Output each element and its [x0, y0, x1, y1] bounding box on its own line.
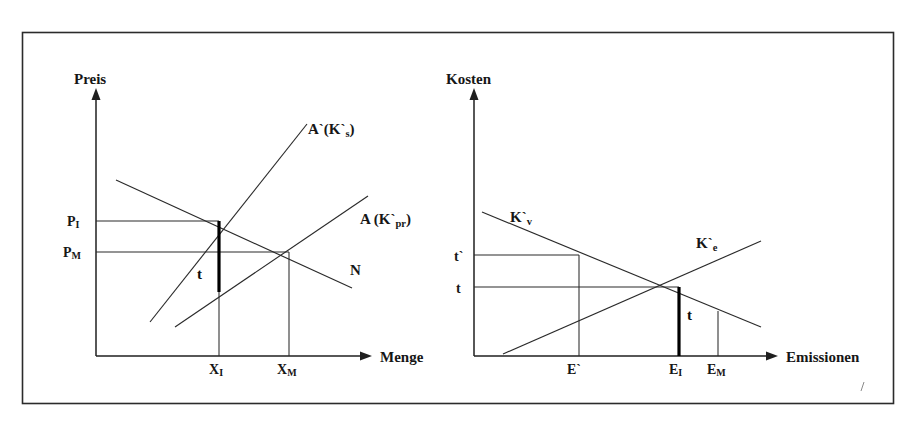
right-panel: Kosten Emissionen K`v K`e t` t E` EI EM …	[446, 71, 860, 378]
curve-label-demand-n: N	[350, 262, 361, 278]
tick-label-cost-t: t	[456, 281, 461, 296]
curve-k-prime-e	[503, 241, 761, 354]
tick-label-emissions-e-prime: E`	[567, 362, 581, 377]
curve-k-prime-v	[482, 212, 761, 327]
left-y-axis-arrowhead	[92, 88, 101, 100]
tax-gap-label-left: t	[197, 266, 202, 282]
figure-root: Preis Menge A`(K`s) A (K`pr) N PI PM XI …	[0, 0, 907, 435]
curve-label-k-prime-v: K`v	[510, 209, 533, 227]
curve-label-k-prime-e: K`e	[696, 235, 718, 253]
tick-label-cost-t-prime: t`	[454, 249, 463, 264]
left-x-axis-title: Menge	[380, 349, 424, 365]
curve-a-prime-social	[150, 124, 307, 322]
curve-demand-n	[116, 180, 352, 288]
curve-label-a-prime: A`(K`s)	[308, 121, 355, 139]
right-x-axis-arrowhead	[766, 352, 778, 361]
right-y-axis-title: Kosten	[446, 71, 492, 87]
curve-a-private	[175, 196, 368, 327]
tick-label-quantity-xm: XM	[277, 362, 297, 378]
right-y-axis-arrowhead	[470, 88, 479, 100]
tick-label-emissions-ei: EI	[669, 362, 682, 378]
right-x-axis-title: Emissionen	[786, 349, 860, 365]
tick-label-quantity-xi: XI	[209, 362, 223, 378]
curve-label-a-private: A (K`pr)	[360, 211, 411, 229]
left-x-axis-arrowhead	[360, 352, 372, 361]
left-y-axis-title: Preis	[74, 71, 106, 87]
figure-border	[23, 33, 894, 404]
tick-label-emissions-em: EM	[707, 362, 726, 378]
tax-gap-label-right: t	[687, 307, 692, 323]
tick-label-price-pi: PI	[67, 214, 80, 230]
scan-artifact-mark	[861, 382, 864, 391]
tick-label-price-pm: PM	[63, 245, 82, 261]
left-panel: Preis Menge A`(K`s) A (K`pr) N PI PM XI …	[63, 71, 424, 378]
economics-diagram-canvas: Preis Menge A`(K`s) A (K`pr) N PI PM XI …	[0, 0, 907, 435]
